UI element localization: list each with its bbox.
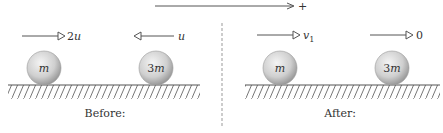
collision-diagram: + m 3m 2u	[0, 0, 443, 133]
after-caption: After:	[323, 107, 356, 120]
ground-surface	[8, 85, 200, 99]
velocity-arrow-v1: v1	[257, 29, 314, 44]
ball-3m: 3m	[139, 51, 173, 85]
before-panel: m 3m 2u u Before:	[8, 30, 200, 120]
ball-mass-label: 3m	[383, 62, 400, 75]
velocity-label: 2u	[67, 30, 81, 43]
arrowhead-right-icon	[58, 32, 65, 40]
velocity-label: 0	[416, 29, 423, 42]
before-caption: Before:	[85, 107, 126, 120]
ball-mass-label: m	[275, 62, 285, 75]
positive-direction-label: +	[298, 0, 307, 13]
velocity-arrow-u: u	[134, 30, 185, 43]
arrowhead-right-icon	[406, 31, 413, 39]
after-panel: m 3m v1 0 After:	[245, 29, 440, 120]
ball-m: m	[27, 51, 61, 85]
ground-surface	[245, 85, 440, 99]
velocity-label: u	[178, 30, 185, 43]
ball-3m: 3m	[375, 51, 409, 85]
arrowhead-left-icon	[134, 32, 141, 40]
ball-mass-label: 3m	[147, 62, 164, 75]
arrowhead-right-icon	[293, 31, 300, 39]
ball-mass-label: m	[39, 62, 49, 75]
ball-m: m	[263, 51, 297, 85]
velocity-label: v1	[303, 29, 314, 44]
velocity-arrow-zero: 0	[370, 29, 423, 42]
velocity-arrow-2u: 2u	[22, 30, 81, 43]
positive-direction-arrow: +	[155, 0, 307, 13]
